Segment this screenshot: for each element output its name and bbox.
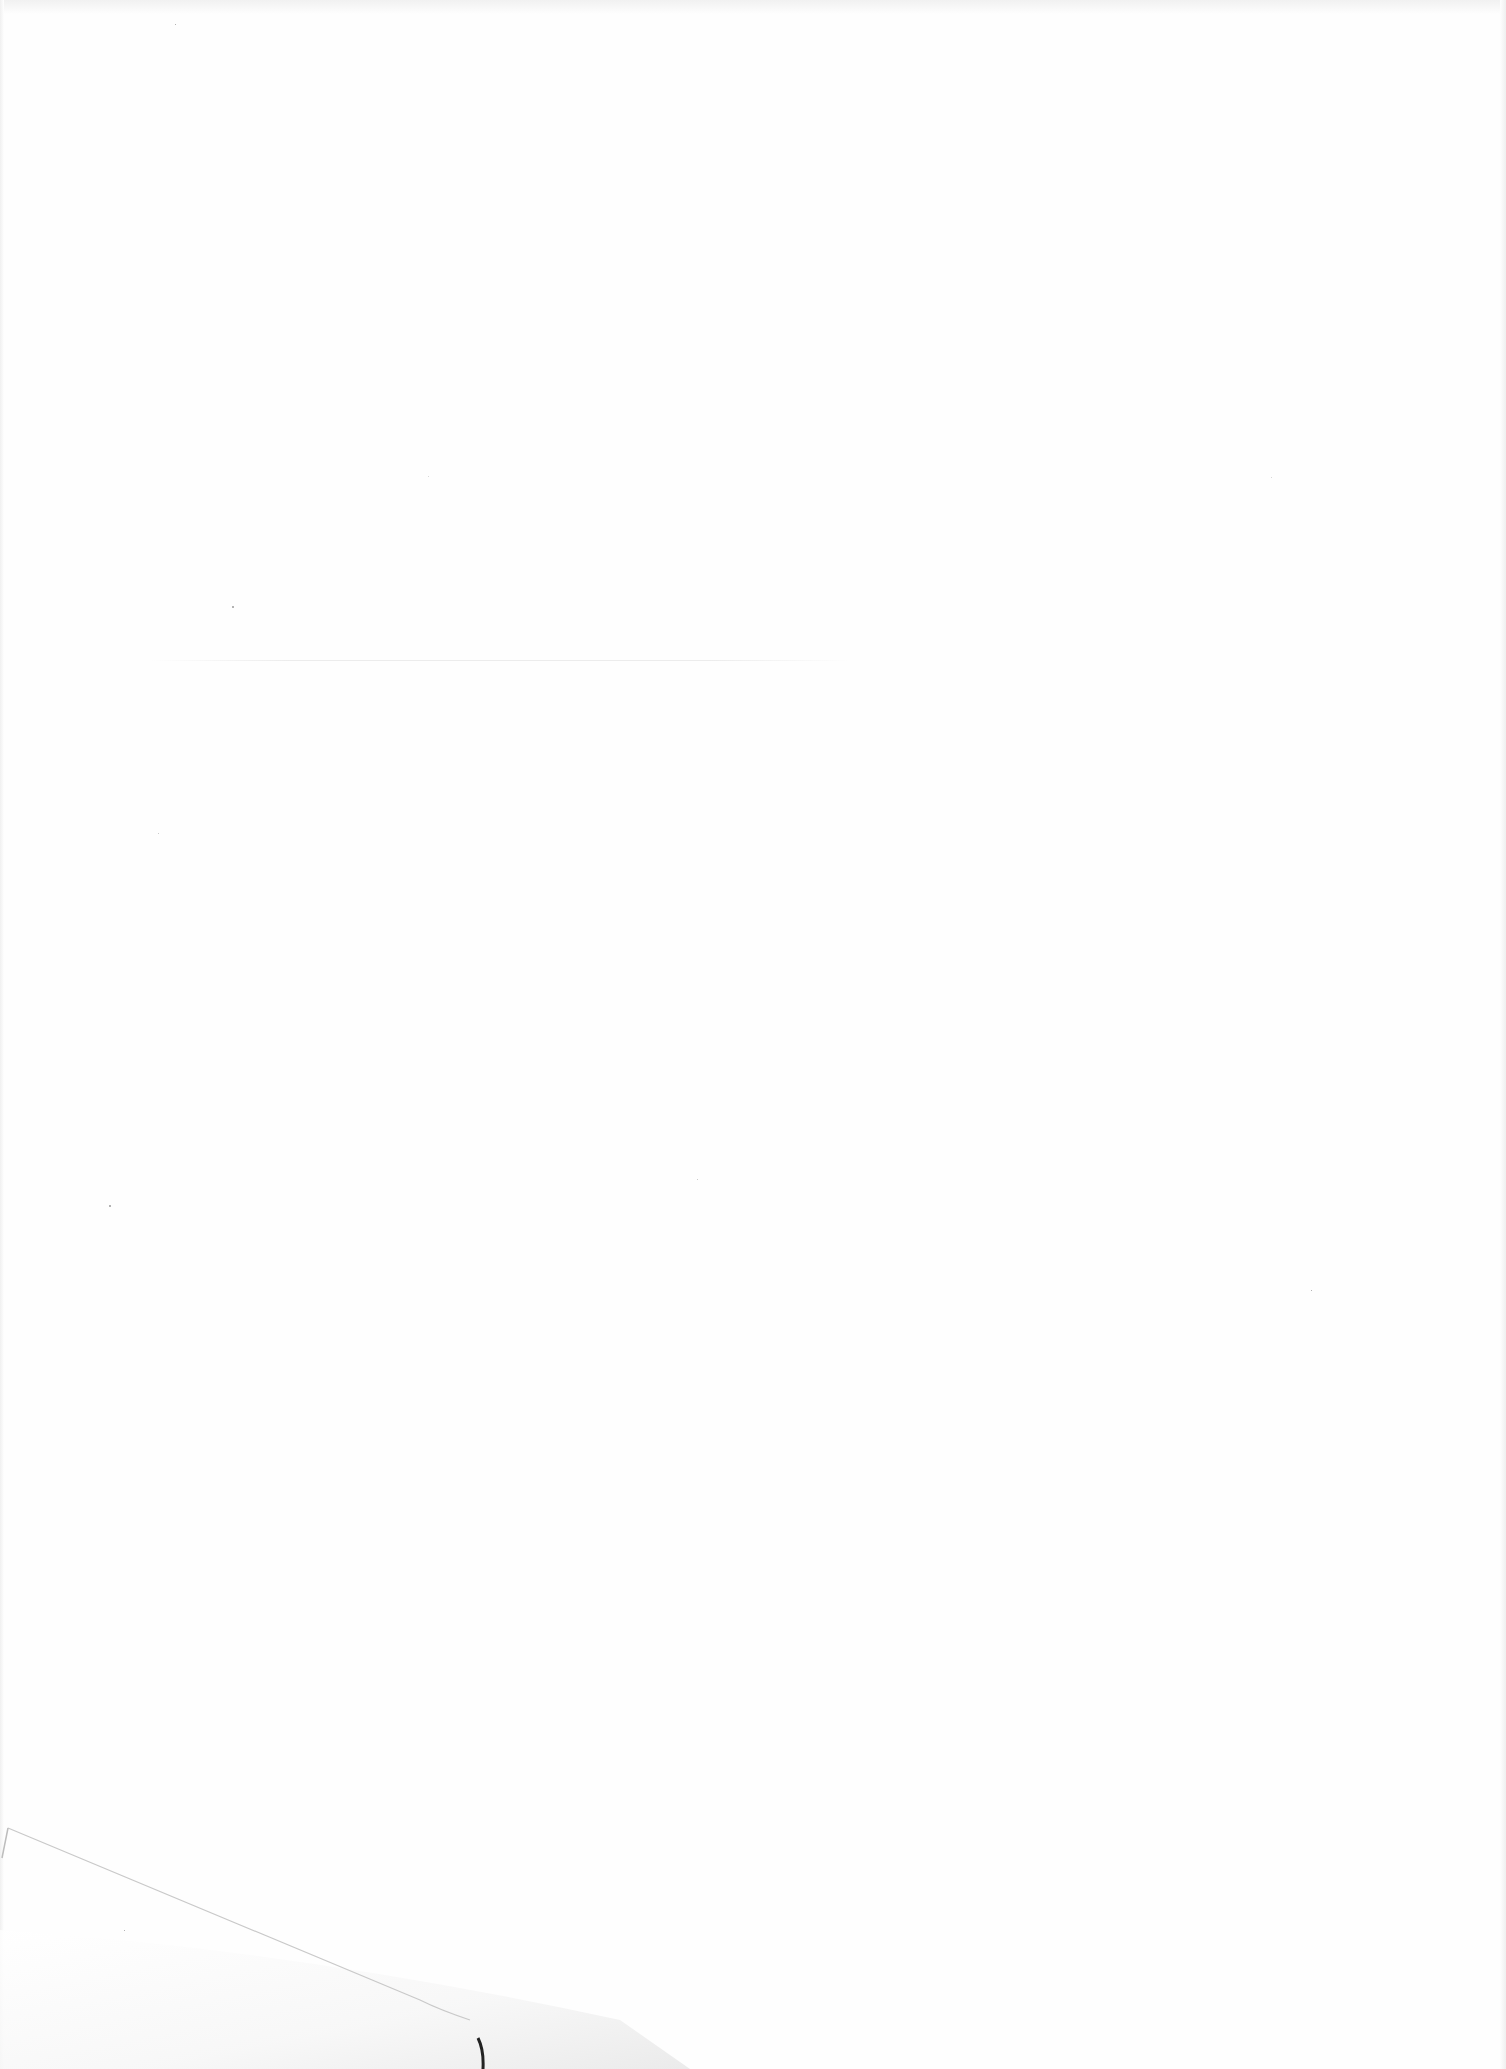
blank-page xyxy=(0,0,1506,2069)
dust-speck xyxy=(1271,477,1272,478)
dust-speck xyxy=(428,476,429,477)
scan-top-edge xyxy=(0,0,1506,14)
dust-speck xyxy=(697,1179,698,1180)
dust-speck xyxy=(109,1205,111,1207)
dust-speck xyxy=(175,24,176,25)
folded-corner xyxy=(0,1780,750,2069)
scan-right-edge xyxy=(1500,0,1506,2069)
dust-speck xyxy=(158,833,159,834)
dust-speck xyxy=(232,606,234,608)
dust-speck xyxy=(1311,1290,1312,1291)
scan-left-edge xyxy=(0,0,4,2069)
paper-crease xyxy=(150,660,850,661)
